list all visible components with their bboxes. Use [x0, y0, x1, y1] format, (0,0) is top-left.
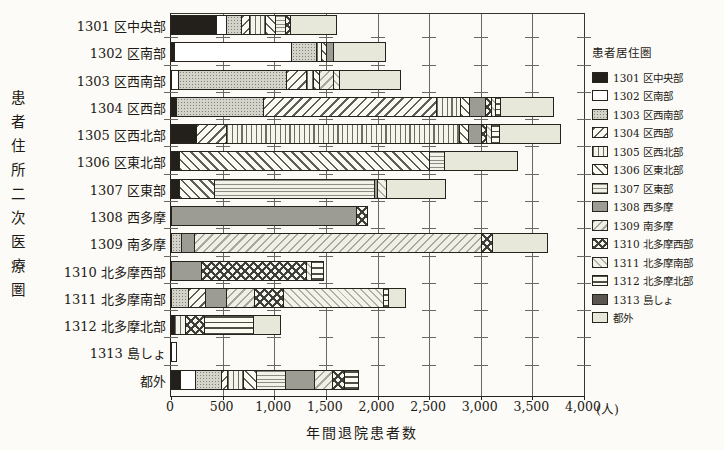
bar-segment [172, 125, 197, 143]
legend-title: 患者居住圏 [592, 44, 722, 60]
row-boundary-tick [216, 228, 230, 229]
legend-swatch [592, 201, 608, 212]
row-boundary-tick [422, 337, 436, 338]
bar-row [171, 370, 359, 390]
bar-segment [250, 16, 267, 34]
gridline [532, 14, 533, 396]
row-boundary-tick [525, 119, 539, 120]
bar-row [171, 315, 281, 335]
y-category-label: 1307 区東部 [26, 177, 166, 204]
row-boundary-tick [422, 201, 436, 202]
bar-segment [189, 289, 206, 307]
legend-item: 1309 南多摩 [592, 216, 722, 235]
legend-label: 1305 区西北部 [613, 144, 683, 159]
legend-item: 1307 区東部 [592, 179, 722, 198]
y-category-label: 1304 区西部 [26, 95, 166, 122]
bar-segment [357, 207, 367, 225]
bar-segment [205, 316, 255, 334]
row-boundary-tick [216, 37, 230, 38]
row-boundary-tick [216, 201, 230, 202]
bar-segment [172, 152, 180, 170]
bar-segment [215, 180, 375, 198]
legend-item: 1311 北多摩南部 [592, 253, 722, 272]
bar-row [171, 342, 177, 362]
legend-label: 1309 南多摩 [613, 218, 673, 233]
legend-swatch [592, 90, 608, 101]
row-boundary-tick [319, 201, 333, 202]
row-boundary-tick [525, 337, 539, 338]
bar-segment [172, 262, 202, 280]
row-boundary-tick [371, 92, 385, 93]
chart-figure: 患者住所二次医療圏 1301 区中央部1302 区南部1303 区西南部1304… [0, 0, 724, 450]
bar-row [171, 42, 386, 62]
row-boundary-tick [371, 174, 385, 175]
row-boundary-tick [525, 256, 539, 257]
legend-item: 1304 区西部 [592, 124, 722, 143]
row-boundary-tick [422, 310, 436, 311]
y-category-label: 都外 [26, 368, 166, 395]
bar-segment [242, 16, 250, 34]
row-boundary-tick [371, 365, 385, 366]
row-boundary-tick [319, 337, 333, 338]
bar-segment [254, 316, 280, 334]
row-boundary-tick [371, 146, 385, 147]
bar-segment [461, 98, 470, 116]
bar-segment [292, 43, 317, 61]
bar-segment [492, 125, 500, 143]
bar-segment [437, 98, 460, 116]
bar-segment [255, 289, 284, 307]
row-boundary-tick [525, 228, 539, 229]
bar-segment [172, 71, 179, 89]
legend-swatch [592, 146, 608, 157]
bar-segment [470, 98, 486, 116]
row-boundary-tick [474, 256, 488, 257]
row-boundary-tick [164, 283, 178, 284]
row-boundary-tick [216, 337, 230, 338]
row-boundary-tick [422, 65, 436, 66]
bar-segment [284, 289, 384, 307]
bar-segment [244, 371, 256, 389]
legend-swatch [592, 164, 608, 175]
bar-segment [186, 316, 204, 334]
row-boundary-tick [216, 310, 230, 311]
bar-segment [172, 16, 217, 34]
row-boundary-tick [525, 174, 539, 175]
row-boundary-tick [474, 146, 488, 147]
row-boundary-tick [319, 228, 333, 229]
y-category-label: 1306 区東北部 [26, 149, 166, 176]
row-boundary-tick [474, 228, 488, 229]
bar-segment [181, 371, 195, 389]
bar-segment [264, 98, 437, 116]
row-boundary-tick [267, 146, 281, 147]
row-boundary-tick [371, 283, 385, 284]
gridline [481, 14, 482, 396]
legend-item: 1310 北多摩西部 [592, 235, 722, 254]
row-boundary-tick [525, 365, 539, 366]
legend-swatch [592, 238, 608, 249]
bar-segment [387, 180, 445, 198]
bar-row [171, 179, 446, 199]
legend-label: 1304 区西部 [613, 125, 673, 140]
row-boundary-tick [525, 146, 539, 147]
bar-row [171, 261, 324, 281]
row-boundary-tick [422, 119, 436, 120]
row-boundary-tick [164, 337, 178, 338]
row-boundary-tick [319, 283, 333, 284]
legend-item: 1312 北多摩北部 [592, 272, 722, 291]
row-boundary-tick [474, 65, 488, 66]
row-boundary-tick [577, 146, 591, 147]
legend-swatch [592, 294, 608, 305]
row-boundary-tick [164, 146, 178, 147]
row-boundary-tick [216, 65, 230, 66]
bar-row [171, 70, 401, 90]
y-category-label: 1302 区南部 [26, 40, 166, 67]
bar-segment [320, 71, 334, 89]
row-boundary-tick [267, 228, 281, 229]
legend-item: 1305 区西北部 [592, 142, 722, 161]
legend-swatch [592, 72, 608, 83]
plot-area [170, 13, 585, 397]
bar-segment [307, 71, 314, 89]
bar-segment [180, 152, 430, 170]
y-category-label: 1303 区西南部 [26, 68, 166, 95]
legend-item: 1306 区東北部 [592, 161, 722, 180]
